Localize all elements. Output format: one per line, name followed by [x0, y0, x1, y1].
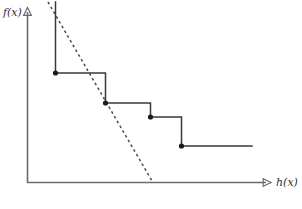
y-axis-group [24, 8, 32, 183]
step-point-marker [103, 100, 108, 105]
step-point-marker [179, 143, 184, 148]
x-axis-label: h(x) [276, 176, 298, 189]
dashed-reference-line [48, 2, 152, 181]
step-point-marker [148, 114, 153, 119]
step-point-marker [53, 70, 58, 75]
x-axis-group [27, 179, 271, 187]
figure-container: f(x) h(x) [0, 0, 302, 209]
y-axis-label: f(x) [2, 6, 22, 19]
step-function-curve [56, 2, 253, 146]
step-function-chart: f(x) h(x) [0, 0, 302, 209]
